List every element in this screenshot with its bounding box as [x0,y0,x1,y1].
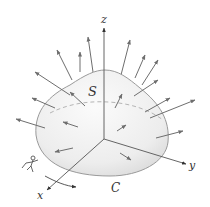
y-axis-label: y [189,160,195,171]
x-axis-label: x [37,190,43,201]
walking-figure-icon [22,156,38,172]
stokes-diagram [0,0,210,207]
curve-label: C [111,182,120,194]
surface-label: S [88,85,97,98]
z-axis-label: z [101,14,107,25]
